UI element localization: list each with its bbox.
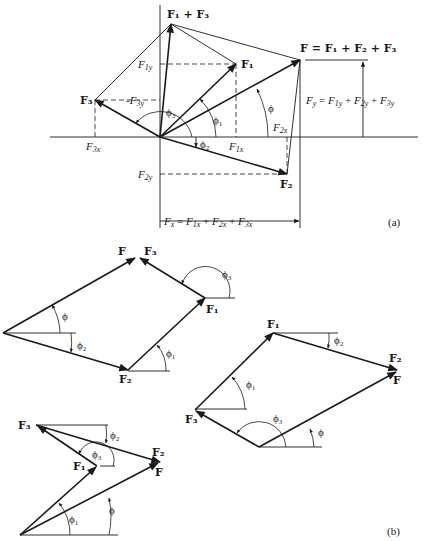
vector-f2: [160, 137, 287, 174]
label-phi: ϕ: [268, 102, 274, 114]
label-f: F: [155, 466, 163, 479]
label-fx-sum: Fx = F1x + F2x + F3x: [163, 215, 253, 229]
label-phi1: ϕ₁: [246, 378, 256, 390]
vector-addition-figure: F₁ + F₃ F₁ F₂ F₃ F = F₁ + F₂ + F₃ Fy = F…: [0, 0, 423, 541]
label-phi2: ϕ₂: [200, 138, 210, 150]
vector-f1-plus-f3: [160, 24, 171, 137]
polygon-diagram-top-left: F F₃ F₁ F₂ ϕ ϕ₂ ϕ₁ ϕ₃: [3, 245, 235, 386]
angle-arc-phi2: [328, 333, 329, 348]
svg-text:F1x: F1x: [228, 140, 244, 154]
part-b-polygon-diagrams: F F₃ F₁ F₂ ϕ ϕ₂ ϕ₁ ϕ₃: [3, 245, 402, 538]
vector-f1: [128, 298, 205, 370]
label-f1: F₁: [267, 318, 280, 331]
label-f-sum: F = F₁ + F₂ + F₃: [300, 42, 397, 55]
label-phi: ϕ: [62, 310, 68, 322]
polygon-diagram-bottom-left: F₃ F₁ F₂ F ϕ₂ ϕ₃ ϕ₁ ϕ: [18, 419, 165, 535]
label-f3: F₃: [144, 245, 157, 258]
vector-f1: [160, 64, 236, 137]
label-phi2: ϕ₂: [334, 334, 344, 346]
label-f2: F₂: [119, 373, 132, 386]
label-f2x: F2x: [272, 121, 288, 135]
angle-arc-phi: [310, 429, 314, 447]
label-phi3: ϕ₃: [273, 412, 283, 424]
construction-line-f1f3-to-f: [171, 24, 300, 60]
part-a-label: (a): [388, 216, 401, 229]
figure-canvas: F₁ + F₃ F₁ F₂ F₃ F = F₁ + F₂ + F₃ Fy = F…: [0, 0, 423, 541]
label-f: F: [118, 245, 126, 258]
label-f1: F₁: [206, 303, 219, 316]
label-f2: F₂: [280, 178, 293, 191]
label-phi3: ϕ₃: [166, 106, 176, 118]
vector-f-resultant: [3, 258, 135, 333]
svg-text:Fy = F1y + F2y + F3y: Fy = F1y + F2y + F3y: [305, 94, 395, 108]
angle-arc-phi2: [106, 425, 107, 443]
label-f1: F₁: [73, 460, 86, 473]
vector-f3: [196, 411, 259, 447]
label-phi3: ϕ₃: [92, 448, 102, 460]
label-f1y: F1y: [137, 58, 153, 72]
label-f: F: [393, 374, 401, 387]
vector-f1: [195, 333, 273, 410]
label-f1: F₁: [241, 58, 254, 71]
vector-f2: [3, 333, 128, 370]
label-phi1: ϕ₁: [166, 347, 176, 359]
vector-f3: [140, 258, 205, 298]
label-f2: F₂: [389, 352, 402, 365]
label-phi3: ϕ₃: [222, 268, 232, 280]
label-f1x: F1x: [228, 140, 244, 154]
label-phi1: ϕ₁: [69, 513, 79, 525]
label-f1-plus-f3: F₁ + F₃: [167, 8, 209, 21]
vector-f3: [38, 426, 97, 466]
label-f3: F₃: [18, 419, 31, 432]
angle-arc-phi3: [237, 422, 286, 447]
construction-line-f2-to-f: [287, 60, 300, 174]
label-phi2: ϕ₂: [77, 339, 87, 351]
svg-text:F1y: F1y: [137, 58, 153, 72]
angle-arc-phi: [257, 89, 268, 137]
svg-text:F2x: F2x: [272, 121, 288, 135]
label-f3: F₃: [80, 94, 93, 107]
label-f2: F₂: [152, 446, 165, 459]
label-f3x: F3x: [85, 140, 101, 154]
label-fy-sum: Fy = F1y + F2y + F3y: [305, 94, 395, 108]
angle-arc-phi: [52, 305, 60, 333]
angle-arc-phi2: [71, 333, 72, 352]
label-phi2: ϕ₂: [110, 429, 120, 441]
svg-text:-F3y: -F3y: [126, 94, 144, 108]
part-a-component-diagram: F₁ + F₃ F₁ F₂ F₃ F = F₁ + F₂ + F₃ Fy = F…: [50, 5, 418, 229]
label-f3: F₃: [185, 413, 198, 426]
construction-line-f1f3-to-f1: [171, 24, 236, 64]
angle-arc-phi1: [232, 377, 245, 409]
label-phi: ϕ: [318, 426, 324, 438]
svg-text:F2y: F2y: [137, 168, 153, 182]
angle-arc-phi1: [157, 345, 166, 371]
polygon-diagram-right: F₁ F₂ F F₃ ϕ₁ ϕ₂ ϕ₃ ϕ: [185, 318, 402, 447]
label-phi1: ϕ₁: [213, 114, 223, 126]
svg-text:F3x: F3x: [85, 140, 101, 154]
label-f3y: -F3y: [126, 94, 144, 108]
label-phi: ϕ: [109, 504, 115, 516]
label-f2y: F2y: [137, 168, 153, 182]
vector-f-resultant: [259, 372, 396, 447]
part-b-label: (b): [387, 525, 400, 538]
svg-text:Fx = F1x + F2x + F3x: Fx = F1x + F2x + F3x: [163, 215, 253, 229]
